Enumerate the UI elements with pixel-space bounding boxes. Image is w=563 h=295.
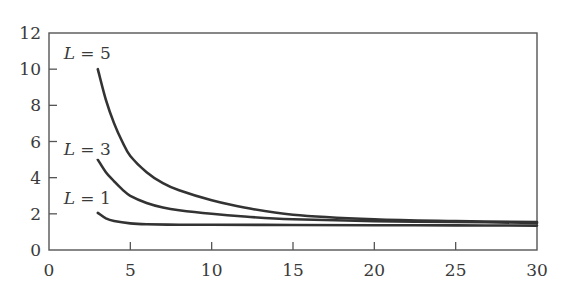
curve-label: L = 1 <box>63 188 111 208</box>
x-tick-label: 20 <box>364 260 386 280</box>
curve-labels: L = 5L = 3L = 1 <box>62 43 112 208</box>
curve-label: L = 3 <box>63 139 111 159</box>
curve-label-variable: L <box>63 43 75 63</box>
y-tick-label: 4 <box>30 168 41 188</box>
y-tick-label: 12 <box>19 23 41 43</box>
curve-label-value: = 5 <box>75 43 111 63</box>
y-tick-label: 6 <box>30 132 41 152</box>
x-tick-label: 10 <box>201 260 223 280</box>
x-tick-label: 15 <box>282 260 304 280</box>
x-tick-label: 25 <box>445 260 467 280</box>
x-tick-label: 30 <box>526 260 548 280</box>
series-group <box>98 69 537 225</box>
y-tick-label: 0 <box>30 240 41 260</box>
curve-label-value: = 1 <box>75 188 111 208</box>
curve-label-variable: L <box>63 139 75 159</box>
curve-label-variable: L <box>63 188 75 208</box>
series-line-l3 <box>98 160 537 223</box>
series-line-l5 <box>98 69 537 222</box>
y-tick-label: 8 <box>30 95 41 115</box>
curve-label: L = 5 <box>63 43 111 63</box>
chart: 051015202530024681012 L = 5L = 3L = 1 <box>0 0 563 295</box>
x-tick-label: 5 <box>125 260 136 280</box>
y-tick-label: 10 <box>19 59 41 79</box>
y-tick-label: 2 <box>30 204 41 224</box>
curve-label-value: = 3 <box>75 139 111 159</box>
x-tick-label: 0 <box>44 260 55 280</box>
